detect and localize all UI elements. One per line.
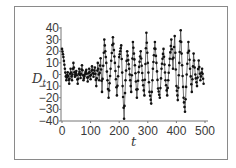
data-point — [64, 67, 67, 70]
data-point — [176, 90, 179, 93]
data-point — [145, 31, 148, 34]
data-point — [133, 58, 136, 61]
data-point — [162, 48, 165, 51]
data-point — [126, 54, 129, 57]
data-point — [199, 79, 202, 82]
data-point — [157, 90, 160, 93]
data-point — [108, 82, 111, 85]
data-point — [89, 78, 92, 81]
data-point — [167, 72, 170, 75]
data-point — [156, 70, 159, 73]
data-point — [71, 79, 74, 82]
data-point — [195, 81, 198, 84]
data-point — [152, 61, 155, 64]
data-point — [109, 67, 112, 70]
data-point — [196, 85, 199, 88]
data-point — [99, 57, 102, 60]
data-point — [178, 74, 181, 77]
x-tick-label: 500 — [195, 124, 215, 138]
time-series-chart: 403020100−10−20−30−40 0100200300400500 D… — [0, 0, 236, 168]
data-point — [118, 56, 121, 59]
data-point — [65, 79, 68, 82]
data-point — [119, 50, 122, 53]
data-point — [98, 79, 101, 82]
data-point — [152, 67, 155, 70]
data-point — [148, 81, 151, 84]
data-point — [176, 94, 179, 97]
data-point — [168, 64, 171, 67]
data-point — [139, 50, 142, 53]
data-point — [115, 78, 118, 81]
data-point — [73, 66, 76, 69]
data-point — [141, 72, 144, 75]
data-point — [173, 46, 176, 49]
data-point — [72, 62, 75, 65]
data-point — [145, 47, 148, 50]
data-point — [146, 52, 149, 55]
y-tick-label: −40 — [39, 114, 60, 128]
data-point — [201, 72, 204, 75]
data-point — [92, 76, 95, 79]
data-point — [169, 51, 172, 54]
data-point — [136, 97, 139, 100]
data-point — [123, 105, 126, 108]
data-point — [166, 94, 169, 97]
x-tick-label: 200 — [109, 124, 129, 138]
data-point — [118, 53, 121, 56]
data-point — [134, 72, 137, 75]
data-point — [183, 106, 186, 109]
data-point — [154, 48, 157, 51]
data-point — [147, 62, 150, 65]
data-point — [169, 58, 172, 61]
data-point — [61, 48, 64, 51]
data-point — [121, 85, 124, 88]
data-point — [122, 96, 125, 99]
y-axis-label: Dt — [31, 71, 46, 88]
data-point — [127, 63, 130, 66]
data-point — [194, 73, 197, 76]
data-point — [127, 59, 130, 62]
data-point — [130, 91, 133, 94]
data-point — [182, 86, 185, 89]
data-point — [144, 78, 147, 81]
data-point — [120, 58, 123, 61]
data-point — [111, 52, 114, 55]
data-point — [117, 65, 120, 68]
x-axis-label: t — [131, 134, 137, 149]
data-point — [99, 64, 102, 67]
data-point — [186, 62, 189, 65]
data-point — [101, 78, 104, 81]
data-point — [64, 71, 67, 74]
data-point — [170, 45, 173, 48]
data-point — [144, 63, 147, 66]
data-point — [181, 75, 184, 78]
data-point — [94, 72, 97, 75]
data-point — [142, 84, 145, 87]
data-point — [193, 66, 196, 69]
data-point — [189, 75, 192, 78]
data-point — [202, 83, 205, 86]
data-point — [165, 89, 168, 92]
data-point — [137, 79, 140, 82]
data-series — [61, 29, 205, 120]
data-point — [190, 83, 193, 86]
data-point — [161, 62, 164, 65]
data-point — [104, 50, 107, 53]
data-point — [188, 50, 191, 53]
data-point — [166, 87, 169, 90]
data-point — [177, 99, 180, 102]
data-point — [121, 71, 124, 74]
data-point — [156, 79, 159, 82]
data-point — [62, 56, 65, 59]
data-point — [188, 59, 191, 62]
data-point — [108, 89, 111, 92]
data-point — [129, 79, 132, 82]
data-point — [129, 85, 132, 88]
data-point — [69, 67, 72, 70]
data-point — [159, 87, 162, 90]
data-point — [198, 66, 201, 69]
x-tick-label: 400 — [166, 124, 186, 138]
data-point — [148, 91, 151, 94]
data-point — [107, 97, 110, 100]
data-point — [180, 52, 183, 55]
